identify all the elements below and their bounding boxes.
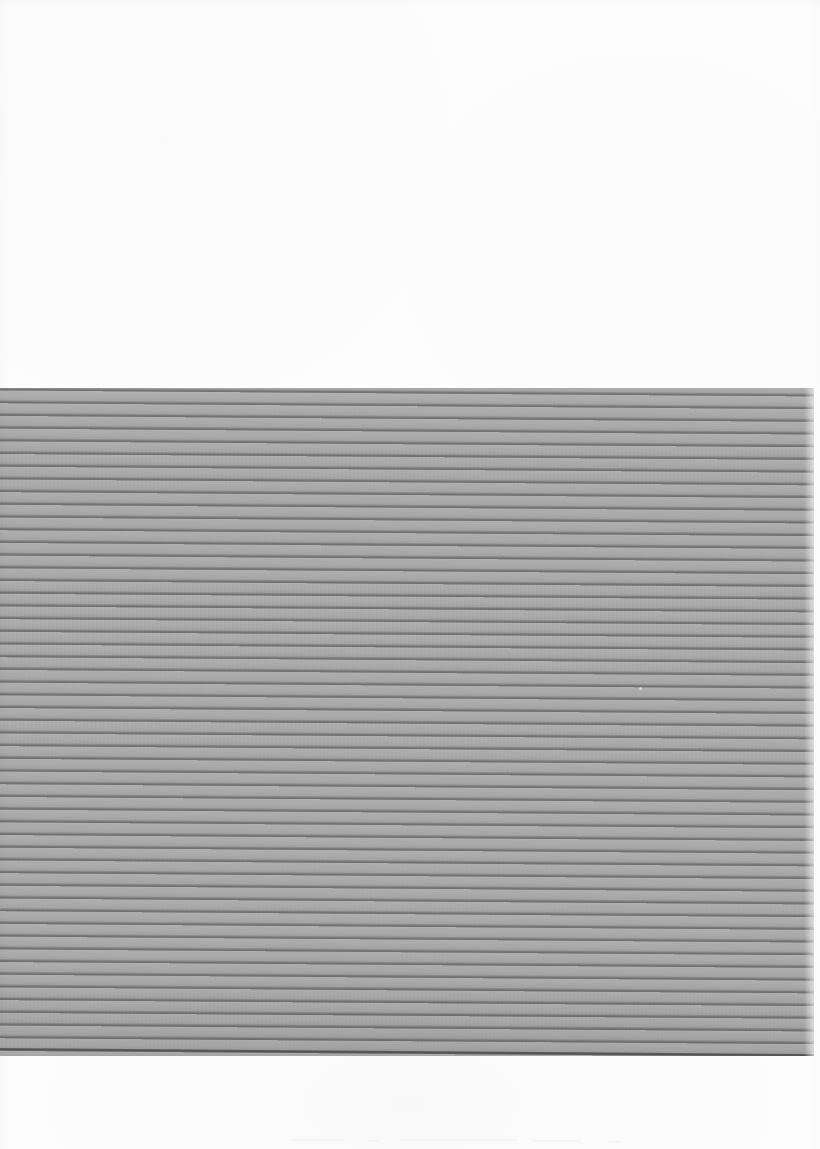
ruled-band-text xyxy=(0,0,1,1)
bottom-margin-text xyxy=(0,0,1,1)
ruled-lines-fill xyxy=(0,388,814,1060)
ruled-band-region xyxy=(0,388,814,1060)
scanned-page: Scanned ruled sheet A scanned page: blan… xyxy=(0,0,820,1149)
bottom-blank-margin xyxy=(0,1056,820,1149)
page-description: A scanned page: blank white upper margin… xyxy=(0,0,1,1)
page-title: Scanned ruled sheet xyxy=(0,0,1,1)
top-margin-text xyxy=(0,0,1,1)
top-blank-margin xyxy=(0,0,820,392)
